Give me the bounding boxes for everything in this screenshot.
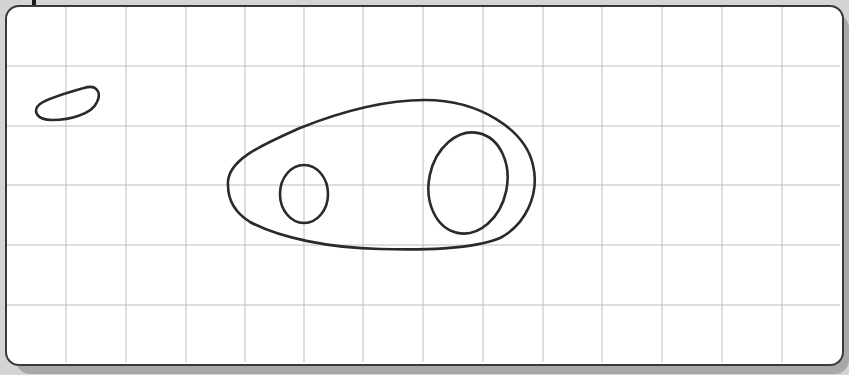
small-blob-shape (36, 87, 99, 120)
grid-lines (7, 7, 840, 362)
large-outer-shape (228, 100, 535, 249)
large-inner-ellipse (419, 125, 517, 241)
